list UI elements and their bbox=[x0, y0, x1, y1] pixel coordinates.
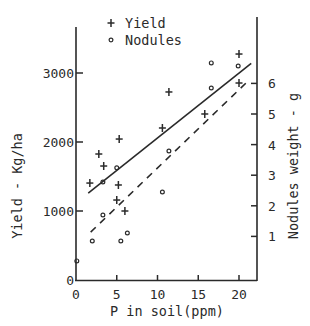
nodules-point bbox=[167, 149, 171, 153]
plus-marker-icon bbox=[108, 19, 115, 27]
right-y-tick-label: 4 bbox=[268, 138, 276, 153]
legend-label-yield: Yield bbox=[125, 15, 166, 31]
nodules-point bbox=[75, 259, 79, 263]
yield-point bbox=[116, 135, 123, 143]
right-y-tick-label: 2 bbox=[268, 199, 276, 214]
nodules-point bbox=[236, 64, 240, 68]
yield-trend-line bbox=[88, 63, 251, 193]
yield-point bbox=[165, 88, 172, 96]
nodules-point bbox=[101, 213, 105, 217]
circle-marker-icon bbox=[109, 38, 113, 42]
yield-point bbox=[121, 207, 128, 215]
x-tick-label: 10 bbox=[150, 287, 166, 302]
plus-marker-icon bbox=[108, 19, 115, 27]
right-y-tick-label: 3 bbox=[268, 168, 276, 183]
yield-point bbox=[236, 50, 243, 58]
x-tick-label: 0 bbox=[72, 287, 80, 302]
x-tick-label: 5 bbox=[113, 287, 121, 302]
nodules-point bbox=[115, 166, 119, 170]
left-y-axis-label: Yield - Kg/ha bbox=[9, 133, 25, 239]
yield-point bbox=[86, 179, 93, 187]
trend-lines bbox=[88, 63, 251, 232]
legend-label-nodules: Nodules bbox=[125, 32, 182, 48]
nodules-trend-line bbox=[91, 82, 247, 232]
x-tick-label: 20 bbox=[231, 287, 247, 302]
left-y-tick-label: 0 bbox=[66, 273, 74, 288]
nodules-point bbox=[119, 239, 123, 243]
legend: Yield Nodules bbox=[108, 15, 182, 48]
x-axis-label: P in soil(ppm) bbox=[110, 303, 224, 319]
yield-point bbox=[95, 150, 102, 158]
yield-point bbox=[100, 162, 107, 170]
right-y-tick-label: 5 bbox=[268, 107, 276, 122]
nodules-point bbox=[125, 231, 129, 235]
yield-point bbox=[236, 79, 243, 87]
right-y-tick-label: 6 bbox=[268, 76, 276, 91]
nodules-point bbox=[160, 190, 164, 194]
yield-point bbox=[201, 110, 208, 118]
right-y-axis-label: Nodules weight - g bbox=[285, 93, 301, 239]
yield-point bbox=[113, 196, 120, 204]
left-y-tick-label: 1000 bbox=[43, 204, 74, 219]
nodules-point bbox=[90, 239, 94, 243]
axes bbox=[75, 17, 257, 281]
right-y-tick-label: 1 bbox=[268, 229, 276, 244]
circle-marker-icon bbox=[109, 38, 113, 42]
nodules-point bbox=[209, 86, 213, 90]
x-tick-label: 15 bbox=[190, 287, 206, 302]
data-points bbox=[75, 50, 243, 263]
x-ticks: 05101520 bbox=[72, 275, 247, 302]
left-y-tick-label: 2000 bbox=[43, 135, 74, 150]
left-y-tick-label: 3000 bbox=[43, 66, 74, 81]
nodules-point bbox=[209, 61, 213, 65]
chart: 05101520 0100020003000 123456 Yield Nodu… bbox=[0, 0, 310, 326]
yield-point bbox=[115, 181, 122, 189]
left-y-ticks: 0100020003000 bbox=[43, 66, 83, 288]
yield-point bbox=[159, 124, 166, 132]
right-y-ticks: 123456 bbox=[251, 76, 276, 244]
